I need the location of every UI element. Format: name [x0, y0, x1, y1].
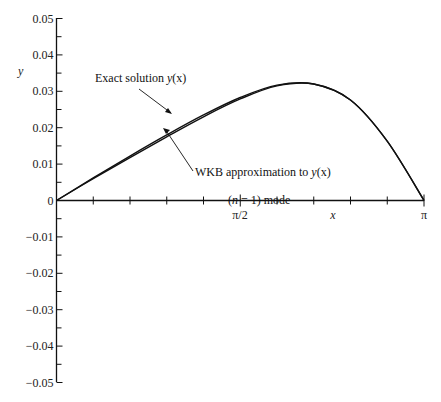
y-axis-label: y — [17, 64, 24, 78]
annotations: Exact solution y(x) WKB approximation to… — [95, 71, 331, 207]
x-tick-label-pi: π — [421, 208, 427, 222]
curves — [57, 83, 425, 201]
y-tick-label: 0.04 — [33, 48, 54, 62]
exact-solution-arrow — [139, 89, 171, 113]
y-tick-label: 0.02 — [33, 121, 54, 135]
wkb-vs-exact-chart: 0.050.040.030.020.010−0.01−0.02−0.03−0.0… — [0, 0, 441, 402]
y-tick-label: 0 — [48, 194, 54, 208]
y-tick-label: −0.05 — [26, 376, 54, 390]
wkb-approximation-label: WKB approximation to y(x) — [195, 165, 331, 179]
wkb-approximation-curve — [57, 83, 425, 201]
mode-label: (n = 1) mode — [228, 193, 290, 207]
y-tick-label: 0.05 — [33, 12, 54, 26]
exact-solution-label: Exact solution y(x) — [95, 71, 186, 85]
wkb-approximation-arrow — [165, 129, 193, 171]
x-tick-label-half-pi: π/2 — [232, 208, 247, 222]
y-tick-label: −0.02 — [26, 266, 54, 280]
exact-solution-curve — [57, 83, 425, 201]
y-axis: 0.050.040.030.020.010−0.01−0.02−0.03−0.0… — [17, 12, 63, 390]
y-tick-label: −0.04 — [26, 339, 54, 353]
y-tick-label: −0.01 — [26, 230, 54, 244]
y-tick-label: −0.03 — [26, 303, 54, 317]
y-tick-label: 0.03 — [33, 84, 54, 98]
y-tick-label: 0.01 — [33, 157, 54, 171]
x-axis-label: x — [329, 208, 336, 222]
